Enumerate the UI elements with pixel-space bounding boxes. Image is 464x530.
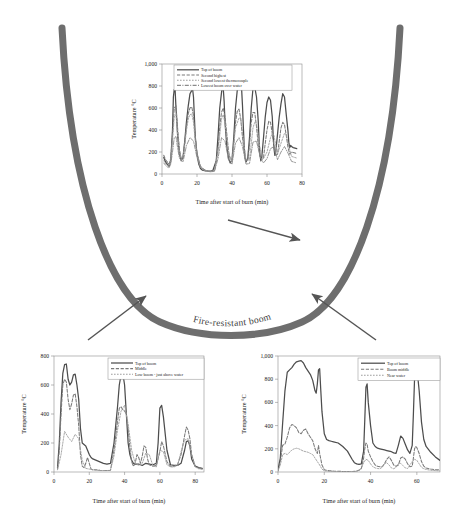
y-axis-title: Temperature °C xyxy=(20,394,27,433)
y-tick-label: 200 xyxy=(41,440,50,446)
top-chart: 02040608002004006008001,000 Top of boomS… xyxy=(126,54,316,214)
legend-label: Middle xyxy=(135,366,147,371)
x-tick-label: 40 xyxy=(122,478,128,484)
x-tick-label: 60 xyxy=(414,478,420,484)
y-tick-label: 1,000 xyxy=(260,353,273,359)
chart-legend: Top of boomSecond highestSecond lowest t… xyxy=(174,65,292,90)
bottom-left-plot: 0204060800200400600800 Top of boomMiddle… xyxy=(20,353,204,505)
boom-label-text: Fire-resistant boom xyxy=(192,311,272,328)
legend-label: Lowest boom over water xyxy=(201,83,242,88)
legend-label: Low boom - just above water xyxy=(135,372,184,377)
y-axis-title: Temperature °C xyxy=(240,394,247,433)
figure-root: Fire-resistant boom 02040608002004006008… xyxy=(0,0,464,530)
legend-label: Boom middle xyxy=(387,367,410,372)
y-tick-label: 1,000 xyxy=(144,61,157,67)
arrow-bottom-right-chart-to-boom xyxy=(312,294,376,340)
x-tick-label: 60 xyxy=(264,180,270,186)
x-tick-label: 20 xyxy=(86,478,92,484)
x-tick-label: 60 xyxy=(157,478,163,484)
x-tick-label: 40 xyxy=(229,180,235,186)
x-tick-label: 40 xyxy=(368,478,374,484)
y-axis-title: Temperature °C xyxy=(130,99,137,138)
y-tick-label: 0 xyxy=(46,469,49,475)
y-tick-label: 600 xyxy=(149,105,158,111)
x-tick-label: 0 xyxy=(53,478,56,484)
y-tick-label: 800 xyxy=(265,376,274,382)
arrow-bottom-left-chart-to-boom xyxy=(88,296,146,340)
x-tick-label: 0 xyxy=(161,180,164,186)
x-axis-title: Time after start of burn (min) xyxy=(323,497,396,505)
arrow-top-chart-to-boom xyxy=(228,220,300,240)
boom-label: Fire-resistant boom xyxy=(192,311,272,328)
legend-label: Top of boom xyxy=(135,361,157,366)
x-tick-label: 80 xyxy=(192,478,198,484)
y-tick-label: 400 xyxy=(149,127,158,133)
y-tick-label: 0 xyxy=(270,469,273,475)
bottom-right-plot: 020406002004006008001,000 Top of boomBoo… xyxy=(240,353,440,505)
x-tick-label: 20 xyxy=(194,180,200,186)
y-tick-label: 600 xyxy=(41,382,50,388)
y-tick-label: 600 xyxy=(265,399,274,405)
x-axis-title: Time after start of burn (min) xyxy=(196,198,269,206)
y-tick-label: 400 xyxy=(265,423,274,429)
bottom-right-chart: 020406002004006008001,000 Top of boomBoo… xyxy=(232,344,454,514)
y-tick-label: 200 xyxy=(265,446,274,452)
legend-label: Near water xyxy=(387,373,406,378)
x-axis-title: Time after start of burn (min) xyxy=(93,497,166,505)
y-tick-label: 0 xyxy=(154,171,157,177)
chart-legend: Top of boomMiddleLow boom - just above w… xyxy=(108,358,204,379)
y-tick-label: 800 xyxy=(41,353,50,359)
x-tick-label: 20 xyxy=(321,478,327,484)
bottom-left-chart: 0204060800200400600800 Top of boomMiddle… xyxy=(14,344,219,514)
x-tick-label: 0 xyxy=(277,478,280,484)
chart-legend: Top of boomBoom middleNear water xyxy=(358,358,440,380)
top-chart-plot: 02040608002004006008001,000 Top of boomS… xyxy=(130,61,305,206)
legend-label: Top of boom xyxy=(387,361,409,366)
y-tick-label: 800 xyxy=(149,83,158,89)
y-tick-label: 400 xyxy=(41,411,50,417)
y-tick-label: 200 xyxy=(149,149,158,155)
x-tick-label: 80 xyxy=(299,180,305,186)
